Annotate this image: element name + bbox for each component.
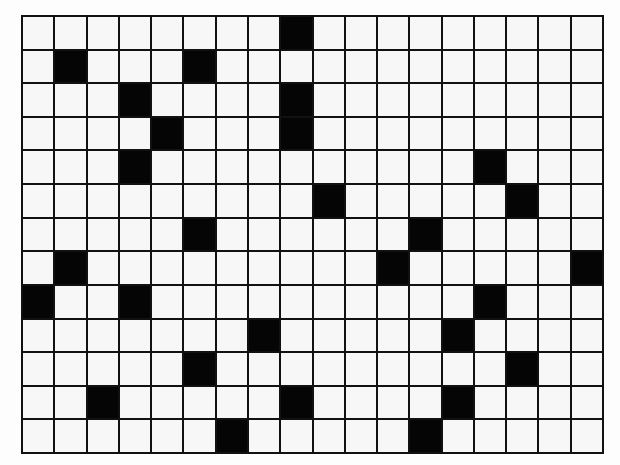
- grid-cell[interactable]: [88, 84, 118, 116]
- grid-cell[interactable]: [539, 118, 569, 150]
- grid-cell[interactable]: [346, 219, 376, 251]
- grid-cell[interactable]: [539, 51, 569, 83]
- grid-cell[interactable]: [217, 353, 247, 385]
- grid-cell[interactable]: [539, 17, 569, 49]
- grid-cell[interactable]: [539, 353, 569, 385]
- grid-cell[interactable]: [184, 84, 214, 116]
- grid-cell[interactable]: [410, 185, 440, 217]
- grid-cell[interactable]: [572, 17, 602, 49]
- grid-cell[interactable]: [23, 353, 53, 385]
- grid-cell[interactable]: [378, 286, 408, 318]
- grid-cell[interactable]: [443, 252, 473, 284]
- grid-cell[interactable]: [507, 17, 537, 49]
- grid-cell[interactable]: [120, 185, 150, 217]
- grid-cell[interactable]: [23, 219, 53, 251]
- grid-cell[interactable]: [217, 286, 247, 318]
- grid-cell[interactable]: [23, 420, 53, 452]
- grid-cell[interactable]: [443, 185, 473, 217]
- grid-cell[interactable]: [120, 219, 150, 251]
- grid-cell[interactable]: [443, 51, 473, 83]
- grid-cell[interactable]: [281, 252, 311, 284]
- grid-cell[interactable]: [410, 17, 440, 49]
- grid-cell[interactable]: [217, 320, 247, 352]
- grid-cell[interactable]: [507, 420, 537, 452]
- grid-cell[interactable]: [475, 84, 505, 116]
- grid-cell[interactable]: [217, 151, 247, 183]
- grid-cell[interactable]: [572, 151, 602, 183]
- grid-cell[interactable]: [539, 252, 569, 284]
- grid-cell[interactable]: [88, 353, 118, 385]
- grid-cell[interactable]: [88, 219, 118, 251]
- grid-cell[interactable]: [152, 420, 182, 452]
- grid-cell[interactable]: [55, 17, 85, 49]
- grid-cell[interactable]: [539, 185, 569, 217]
- grid-cell[interactable]: [507, 286, 537, 318]
- grid-cell[interactable]: [184, 185, 214, 217]
- grid-cell[interactable]: [443, 353, 473, 385]
- grid-cell[interactable]: [410, 118, 440, 150]
- grid-cell[interactable]: [152, 51, 182, 83]
- grid-cell[interactable]: [120, 420, 150, 452]
- grid-cell[interactable]: [249, 387, 279, 419]
- grid-cell[interactable]: [378, 320, 408, 352]
- grid-cell[interactable]: [184, 387, 214, 419]
- grid-cell[interactable]: [152, 219, 182, 251]
- grid-cell[interactable]: [346, 151, 376, 183]
- grid-cell[interactable]: [249, 219, 279, 251]
- grid-cell[interactable]: [120, 320, 150, 352]
- grid-cell[interactable]: [443, 420, 473, 452]
- grid-cell[interactable]: [217, 84, 247, 116]
- grid-cell[interactable]: [378, 353, 408, 385]
- grid-cell[interactable]: [443, 118, 473, 150]
- grid-cell[interactable]: [410, 84, 440, 116]
- grid-cell[interactable]: [410, 151, 440, 183]
- grid-cell[interactable]: [443, 151, 473, 183]
- grid-cell[interactable]: [281, 185, 311, 217]
- grid-cell[interactable]: [152, 320, 182, 352]
- grid-cell[interactable]: [572, 420, 602, 452]
- grid-cell[interactable]: [249, 252, 279, 284]
- grid-cell[interactable]: [475, 118, 505, 150]
- grid-cell[interactable]: [346, 51, 376, 83]
- grid-cell[interactable]: [281, 286, 311, 318]
- grid-cell[interactable]: [152, 185, 182, 217]
- grid-cell[interactable]: [152, 17, 182, 49]
- grid-cell[interactable]: [507, 320, 537, 352]
- grid-cell[interactable]: [314, 353, 344, 385]
- grid-cell[interactable]: [314, 84, 344, 116]
- grid-cell[interactable]: [281, 320, 311, 352]
- grid-cell[interactable]: [378, 420, 408, 452]
- grid-cell[interactable]: [378, 118, 408, 150]
- grid-cell[interactable]: [314, 51, 344, 83]
- grid-cell[interactable]: [378, 185, 408, 217]
- grid-cell[interactable]: [572, 286, 602, 318]
- grid-cell[interactable]: [152, 353, 182, 385]
- grid-cell[interactable]: [217, 252, 247, 284]
- grid-cell[interactable]: [55, 185, 85, 217]
- grid-cell[interactable]: [184, 118, 214, 150]
- grid-cell[interactable]: [152, 252, 182, 284]
- grid-cell[interactable]: [249, 51, 279, 83]
- grid-cell[interactable]: [475, 252, 505, 284]
- grid-cell[interactable]: [539, 387, 569, 419]
- grid-cell[interactable]: [346, 252, 376, 284]
- grid-cell[interactable]: [314, 219, 344, 251]
- grid-cell[interactable]: [346, 118, 376, 150]
- grid-cell[interactable]: [120, 353, 150, 385]
- grid-cell[interactable]: [507, 387, 537, 419]
- grid-cell[interactable]: [152, 151, 182, 183]
- grid-cell[interactable]: [88, 151, 118, 183]
- grid-cell[interactable]: [410, 51, 440, 83]
- grid-cell[interactable]: [539, 286, 569, 318]
- grid-cell[interactable]: [507, 118, 537, 150]
- grid-cell[interactable]: [217, 219, 247, 251]
- grid-cell[interactable]: [55, 320, 85, 352]
- grid-cell[interactable]: [23, 252, 53, 284]
- grid-cell[interactable]: [314, 151, 344, 183]
- grid-cell[interactable]: [475, 353, 505, 385]
- grid-cell[interactable]: [55, 151, 85, 183]
- grid-cell[interactable]: [346, 185, 376, 217]
- grid-cell[interactable]: [249, 151, 279, 183]
- grid-cell[interactable]: [572, 387, 602, 419]
- grid-cell[interactable]: [120, 118, 150, 150]
